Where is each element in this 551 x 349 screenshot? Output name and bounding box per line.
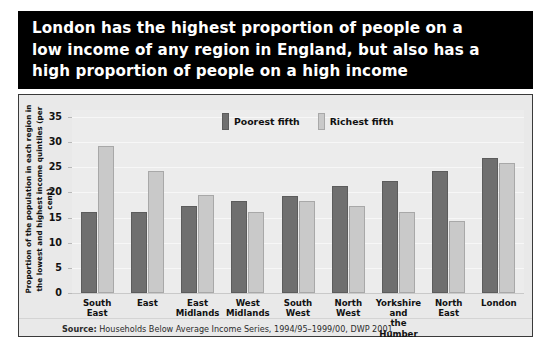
y-tick-mark [68, 268, 72, 269]
y-axis-title: Proportion of the population in each reg… [24, 0, 50, 104]
legend-label-poorest: Poorest fifth [234, 116, 300, 127]
y-tick-label: 15 [40, 212, 62, 223]
y-tick-mark [68, 218, 72, 219]
y-tick-label: 25 [40, 161, 62, 172]
x-axis-category-label: London [471, 298, 527, 308]
x-axis-category-label: East Midlands [169, 298, 225, 318]
y-tick-label: 35 [40, 111, 62, 122]
x-axis-category-label: North East [421, 298, 477, 318]
poorest-swatch-icon [222, 113, 229, 130]
gridline [72, 167, 524, 168]
bar-poorest [332, 186, 348, 293]
richest-swatch-icon [318, 113, 325, 130]
x-axis-category-label: North West [320, 298, 376, 318]
y-tick-label: 20 [40, 186, 62, 197]
bar-poorest [432, 171, 448, 293]
gridline [72, 142, 524, 143]
bar-richest [399, 212, 415, 293]
y-axis-title-line1: Proportion of the population in each reg… [24, 104, 35, 294]
legend-label-richest: Richest fifth [330, 116, 394, 127]
y-tick-mark [68, 142, 72, 143]
bar-richest [499, 163, 515, 293]
y-tick-label: 5 [40, 262, 62, 273]
x-axis-category-label: South West [270, 298, 326, 318]
bar-richest [349, 206, 365, 293]
title-banner: London has the highest proportion of peo… [18, 11, 533, 89]
bar-poorest [382, 181, 398, 293]
chart-figure: London has the highest proportion of peo… [0, 0, 551, 349]
source-divider [19, 318, 532, 319]
x-axis-category-label: West Midlands [220, 298, 276, 318]
source-text: Households Below Average Income Series, … [97, 324, 393, 334]
y-tick-mark [68, 192, 72, 193]
y-tick-mark [68, 117, 72, 118]
legend-item-poorest: Poorest fifth [222, 113, 300, 130]
source-prefix: Source: [62, 324, 97, 334]
bar-richest [148, 171, 164, 293]
bar-poorest [181, 206, 197, 293]
x-axis-category-label: East [119, 298, 175, 308]
bar-richest [299, 201, 315, 293]
bar-poorest [482, 158, 498, 293]
source-note: Source: Households Below Average Income … [62, 324, 393, 334]
gridline [72, 192, 524, 193]
legend-item-richest: Richest fifth [318, 113, 394, 130]
axis-baseline [72, 293, 524, 294]
bar-poorest [81, 212, 97, 293]
bar-poorest [282, 196, 298, 293]
y-tick-label: 10 [40, 237, 62, 248]
bar-richest [248, 212, 264, 293]
bar-poorest [131, 212, 147, 293]
bar-richest [98, 146, 114, 293]
bar-richest [449, 221, 465, 293]
bar-poorest [231, 201, 247, 293]
y-tick-label: 30 [40, 136, 62, 147]
x-axis-category-label: South East [69, 298, 125, 318]
page-title: London has the highest proportion of peo… [32, 18, 519, 83]
y-tick-mark [68, 293, 72, 294]
y-tick-label: 0 [40, 287, 62, 298]
chart-legend: Poorest fifth Richest fifth [222, 113, 394, 130]
y-tick-mark [68, 243, 72, 244]
bar-richest [198, 195, 214, 293]
y-tick-mark [68, 167, 72, 168]
